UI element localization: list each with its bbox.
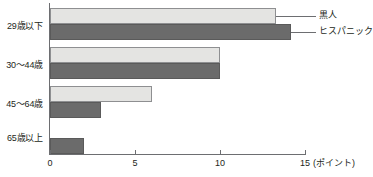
legend-leader-line-hispanic — [291, 32, 316, 33]
category-label-1: 30～44歳 — [0, 60, 43, 71]
category-label-2: 45～64歳 — [0, 99, 43, 110]
x-tick-mark-2 — [220, 150, 221, 155]
category-label-0: 29歳以下 — [0, 21, 43, 32]
legend-label-hispanic: ヒスパニック — [319, 26, 373, 37]
x-axis-line — [49, 154, 306, 155]
bar-black-2 — [50, 86, 152, 102]
bar-black-0 — [50, 8, 276, 24]
x-tick-mark-3 — [305, 150, 306, 155]
bar-black-1 — [50, 47, 220, 63]
x-tick-label-2: 10 — [215, 158, 225, 169]
x-axis-unit-label: (ポイント) — [313, 158, 355, 169]
legend-leader-line-black — [276, 16, 316, 17]
x-tick-mark-1 — [135, 150, 136, 155]
x-tick-label-1: 5 — [132, 158, 137, 169]
bar-hispanic-3 — [50, 138, 84, 154]
bar-hispanic-0 — [50, 24, 291, 40]
bar-hispanic-1 — [50, 63, 220, 79]
x-tick-label-3: 15 — [300, 158, 310, 169]
category-label-3: 65歳以上 — [0, 133, 43, 144]
legend-label-black: 黒人 — [319, 10, 337, 21]
x-tick-mark-0 — [50, 150, 51, 155]
x-tick-label-0: 0 — [47, 158, 52, 169]
bar-hispanic-2 — [50, 102, 101, 118]
